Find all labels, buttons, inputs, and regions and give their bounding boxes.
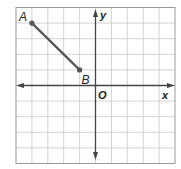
coordinate-plane: A B y x O	[0, 0, 181, 169]
point-b-label: B	[82, 73, 90, 87]
x-axis-label: x	[161, 89, 169, 101]
point-b	[77, 67, 82, 72]
arrow-right-icon	[167, 83, 175, 88]
point-a-label: A	[18, 10, 27, 24]
arrow-left-icon	[16, 83, 24, 88]
y-axis-label: y	[99, 9, 107, 21]
y-axis	[93, 9, 98, 160]
arrow-down-icon	[93, 152, 98, 160]
segment-ab	[32, 23, 80, 70]
point-a	[29, 21, 34, 26]
arrow-up-icon	[93, 9, 98, 17]
origin-label: O	[98, 89, 107, 101]
